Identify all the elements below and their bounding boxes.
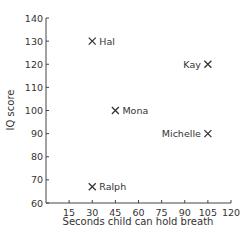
point-label: Mona — [122, 105, 148, 116]
x-marker-icon — [204, 130, 211, 137]
scatter-chart: 1530456075901051206070809010011012013014… — [0, 0, 245, 240]
data-point-michelle: Michelle — [162, 128, 212, 139]
data-points: HalKayMonaMichelleRalph — [89, 36, 212, 193]
data-point-mona: Mona — [112, 105, 148, 116]
x-axis-label: Seconds child can hold breath — [63, 216, 214, 227]
point-label: Michelle — [162, 128, 201, 139]
x-marker-icon — [89, 183, 96, 190]
x-marker-icon — [204, 61, 211, 68]
y-tick-label: 60 — [31, 198, 43, 209]
y-tick-label: 130 — [25, 36, 43, 47]
x-tick-label: 120 — [222, 207, 240, 218]
y-axis-label: IQ score — [5, 90, 16, 131]
y-tick-label: 140 — [25, 13, 43, 24]
x-marker-icon — [112, 107, 119, 114]
y-tick-label: 100 — [25, 105, 43, 116]
y-tick-label: 90 — [31, 128, 43, 139]
point-label: Hal — [99, 36, 115, 47]
point-label: Kay — [183, 59, 201, 70]
data-point-kay: Kay — [183, 59, 211, 70]
y-tick-label: 80 — [31, 151, 43, 162]
data-point-hal: Hal — [89, 36, 115, 47]
data-point-ralph: Ralph — [89, 181, 126, 192]
y-tick-label: 110 — [25, 82, 43, 93]
x-marker-icon — [89, 38, 96, 45]
y-tick-label: 120 — [25, 59, 43, 70]
point-label: Ralph — [99, 181, 126, 192]
y-tick-label: 70 — [31, 174, 43, 185]
